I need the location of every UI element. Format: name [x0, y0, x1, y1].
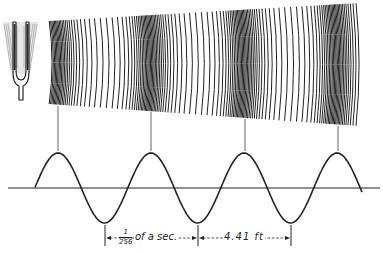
arrowhead-left-icon [199, 236, 204, 240]
wave-front-arc [348, 4, 351, 126]
wave-front-arc [285, 7, 288, 120]
wave-front-arc [179, 13, 182, 113]
wave-front-arc [220, 11, 223, 116]
wave-front-arc [80, 19, 83, 106]
vibration-blur [3, 22, 38, 74]
period-label: of a sec. [134, 232, 178, 242]
wave-front-arc [223, 11, 226, 116]
wave-front-arc [190, 13, 193, 114]
wave-front-arc [100, 18, 103, 108]
wave-front-arc [129, 16, 132, 109]
wave-front-arc [265, 8, 268, 119]
wave-front-arc [212, 12, 215, 116]
wave-front-arc [89, 19, 92, 107]
arrowhead-right-icon [285, 236, 290, 240]
fraction-denominator: 256 [119, 238, 132, 246]
wave-front-arc [314, 6, 317, 123]
sound-wave-diagram [0, 0, 383, 253]
wave-front-arc [296, 7, 299, 122]
wave-front-arc [106, 18, 109, 108]
arrowhead-left-icon [106, 236, 111, 240]
wave-front-arc [230, 11, 233, 117]
wave-front-arc [184, 13, 187, 113]
wave-front-arc [117, 17, 120, 109]
wave-front-arc [94, 18, 97, 107]
wave-front-arc [307, 6, 310, 122]
wave-front-arc [269, 8, 272, 119]
tuning-fork-icon [3, 22, 38, 100]
wave-front-arc [311, 6, 314, 123]
wave-front-arc [122, 17, 125, 109]
wave-front-arc [175, 14, 178, 113]
wave-front-arc [77, 19, 80, 106]
wave-front-arc [84, 19, 87, 107]
wave-front-arc [217, 11, 220, 116]
sound-wave-fronts [49, 3, 359, 126]
wavelength-label: 4.41 ft [223, 232, 265, 242]
wave-front-arc [195, 13, 198, 115]
arrowhead-right-icon [192, 236, 197, 240]
peak-connector-lines [58, 106, 338, 151]
wave-front-arc [171, 14, 174, 113]
wave-front-arc [112, 17, 115, 108]
wave-front-arc [207, 12, 210, 115]
wave-front-arc [291, 7, 294, 121]
wave-front-arc [274, 8, 277, 120]
period-fraction: 1 256 [119, 229, 132, 246]
wave-front-arc [201, 12, 204, 115]
wave-front-arc [279, 8, 282, 121]
wave-front-arc [126, 17, 129, 110]
wave-front-arc [302, 6, 305, 122]
wave-front-arc [254, 9, 257, 118]
fraction-numerator: 1 [119, 229, 132, 238]
